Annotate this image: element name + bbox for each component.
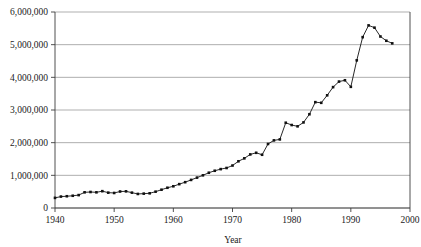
data-point — [89, 191, 92, 194]
data-point — [178, 183, 181, 186]
data-point — [113, 192, 116, 195]
data-point — [279, 138, 282, 141]
data-point — [320, 102, 323, 105]
data-point — [314, 101, 317, 104]
data-point — [308, 113, 311, 116]
chart-container: 01,000,0002,000,0003,000,0004,000,0005,0… — [0, 0, 421, 247]
x-tick-label: 1970 — [223, 215, 242, 225]
data-point — [190, 179, 193, 182]
data-point — [148, 192, 151, 195]
data-point — [71, 194, 74, 197]
x-tick-label: 1990 — [341, 215, 360, 225]
data-point — [296, 125, 299, 128]
data-point — [154, 190, 157, 193]
data-point — [137, 193, 140, 196]
data-point — [391, 42, 394, 45]
data-point — [166, 186, 169, 189]
data-point — [302, 121, 305, 124]
data-point — [350, 86, 353, 89]
data-point — [249, 153, 252, 156]
data-point — [66, 195, 69, 198]
x-tick-label: 2000 — [401, 215, 420, 225]
data-point — [142, 192, 145, 195]
x-tick-label: 1950 — [105, 215, 124, 225]
data-point — [196, 176, 199, 179]
tickmarks-group — [51, 12, 410, 212]
data-point — [284, 121, 287, 124]
data-point — [213, 169, 216, 172]
data-point — [219, 168, 222, 171]
data-point — [385, 39, 388, 42]
data-point — [243, 157, 246, 160]
data-series-line — [55, 25, 392, 197]
data-point — [225, 167, 228, 170]
data-point — [255, 151, 258, 154]
data-point — [338, 80, 341, 83]
data-point — [367, 24, 370, 27]
y-axis-tick-labels: 01,000,0002,000,0003,000,0004,000,0005,0… — [10, 7, 48, 213]
data-point — [160, 188, 163, 191]
y-tick-label: 2,000,000 — [10, 138, 48, 148]
data-point — [373, 26, 376, 29]
data-point — [355, 59, 358, 62]
data-series-markers — [54, 24, 394, 199]
data-point — [95, 191, 98, 194]
data-point — [125, 190, 128, 193]
data-point — [379, 35, 382, 38]
data-point — [107, 191, 110, 194]
y-tick-label: 6,000,000 — [10, 7, 48, 17]
y-tick-label: 4,000,000 — [10, 73, 48, 83]
data-point — [273, 139, 276, 142]
data-point — [231, 164, 234, 167]
data-point — [332, 86, 335, 89]
data-point — [77, 194, 80, 197]
line-chart: 01,000,0002,000,0003,000,0004,000,0005,0… — [0, 0, 421, 247]
y-tick-label: 0 — [43, 203, 48, 213]
data-point — [290, 124, 293, 127]
data-point — [326, 94, 329, 97]
data-point — [267, 143, 270, 146]
y-tick-label: 3,000,000 — [10, 105, 48, 115]
data-point — [54, 197, 57, 200]
data-point — [237, 160, 240, 163]
x-axis-title: Year — [224, 235, 242, 245]
y-tick-label: 1,000,000 — [10, 171, 48, 181]
x-tick-label: 1940 — [46, 215, 65, 225]
data-point — [131, 191, 134, 194]
data-point — [208, 171, 211, 174]
data-point — [172, 185, 175, 188]
data-point — [60, 195, 63, 198]
y-tick-label: 5,000,000 — [10, 40, 48, 50]
data-point — [361, 36, 364, 39]
x-tick-label: 1960 — [164, 215, 183, 225]
data-point — [119, 190, 122, 193]
data-point — [184, 181, 187, 184]
data-point — [344, 79, 347, 82]
data-point — [101, 190, 104, 193]
x-axis-tick-labels: 1940195019601970198019902000 — [46, 215, 420, 225]
data-point — [83, 191, 86, 194]
data-point — [202, 174, 205, 177]
x-tick-label: 1980 — [282, 215, 301, 225]
data-point — [261, 153, 264, 156]
gridlines-group — [55, 12, 410, 208]
